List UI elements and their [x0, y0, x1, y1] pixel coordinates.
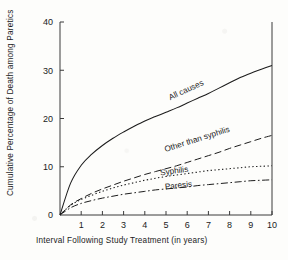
x-tick-label: 4 [142, 220, 147, 230]
y-tick-label: 10 [43, 162, 53, 172]
y-tick-label: 30 [43, 66, 53, 76]
curve-label-syphilis: Syphilis [160, 165, 189, 178]
y-axis-title: Cumulative Percentage of Death among Par… [6, 10, 15, 197]
curve-label-all-causes: All causes [167, 78, 205, 102]
x-tick-label: 6 [185, 220, 190, 230]
curve-group [60, 65, 272, 215]
curve-label-other-than-syphilis: Other than syphilis [163, 125, 230, 154]
x-tick-label: 5 [163, 220, 168, 230]
y-tick-label: 0 [48, 210, 53, 220]
x-tick-label: 3 [121, 220, 126, 230]
x-tick-group: 12345678910 [79, 211, 277, 230]
curve-label-group: All causesOther than syphilisSyphilisPar… [160, 78, 231, 191]
x-tick-label: 1 [79, 220, 84, 230]
x-tick-label: 8 [227, 220, 232, 230]
x-tick-label: 9 [248, 220, 253, 230]
x-axis-title: Interval Following Study Treatment (in y… [36, 236, 208, 245]
y-tick-label: 20 [43, 114, 53, 124]
chart-figure: 010203040 12345678910 All causesOther th… [0, 0, 288, 260]
y-tick-group: 010203040 [43, 17, 64, 220]
x-tick-label: 2 [100, 220, 105, 230]
curve-label-paresis: Paresis [164, 179, 192, 191]
x-tick-label: 10 [267, 220, 277, 230]
curve-all-causes [60, 65, 272, 215]
y-tick-label: 40 [43, 17, 53, 27]
x-tick-label: 7 [206, 220, 211, 230]
